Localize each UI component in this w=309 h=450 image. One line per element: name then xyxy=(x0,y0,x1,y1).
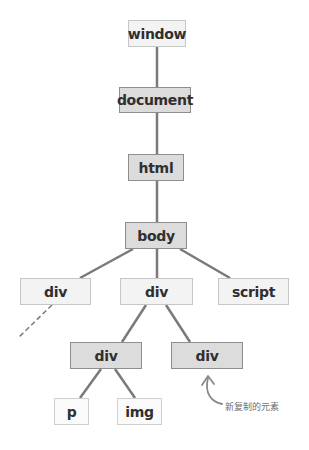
node-p: p xyxy=(54,398,89,425)
node-div-mid: div xyxy=(120,278,193,305)
edge-body-to-div-left xyxy=(80,249,133,278)
edge-body-to-script xyxy=(180,249,230,278)
edge-div-mid-to-div-child-right xyxy=(166,305,190,342)
edge-div-mid-to-div-child-left xyxy=(122,305,146,342)
node-div-left: div xyxy=(20,278,91,305)
node-body: body xyxy=(125,222,187,249)
edge-div-child-left-to-img xyxy=(115,369,135,398)
node-html: html xyxy=(128,154,184,181)
dashed-edge-div-left xyxy=(18,305,52,338)
dom-tree-diagram: windowdocumenthtmlbodydivdivscriptdivdiv… xyxy=(0,0,309,450)
cloned-element-annotation: 新复制的元素 xyxy=(225,400,279,413)
node-script: script xyxy=(218,278,289,305)
node-window: window xyxy=(128,20,186,47)
node-div-child-right: div xyxy=(171,342,243,369)
node-img: img xyxy=(117,398,162,425)
node-document: document xyxy=(119,87,191,113)
node-div-child-left: div xyxy=(70,342,142,369)
curved-arrow-icon xyxy=(207,378,222,404)
edge-div-child-left-to-p xyxy=(80,369,101,398)
